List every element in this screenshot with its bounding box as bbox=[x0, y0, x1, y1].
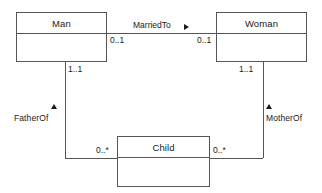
class-name-compartment-woman: Woman bbox=[217, 13, 306, 34]
class-attributes-compartment-child bbox=[118, 158, 209, 193]
class-name-child: Child bbox=[152, 142, 174, 153]
class-name-woman: Woman bbox=[245, 18, 278, 29]
class-box-man[interactable]: Man bbox=[16, 12, 107, 62]
class-name-compartment-man: Man bbox=[17, 13, 106, 34]
class-attributes-compartment-woman bbox=[217, 34, 306, 82]
class-box-woman[interactable]: Woman bbox=[216, 12, 307, 62]
arrow-up-icon-motherof bbox=[266, 104, 272, 109]
association-label-motherof: MotherOf bbox=[266, 113, 302, 123]
multiplicity-man-fatherof: 1..1 bbox=[67, 64, 83, 74]
multiplicity-woman-marriedto: 0..1 bbox=[196, 35, 212, 45]
class-name-compartment-child: Child bbox=[118, 137, 209, 158]
multiplicity-woman-motherof: 1..1 bbox=[238, 64, 254, 74]
multiplicity-child-fatherof: 0..* bbox=[95, 145, 110, 155]
multiplicity-child-motherof: 0..* bbox=[212, 145, 227, 155]
uml-class-diagram: Man Woman Child MarriedTo 0..1 0..1 1..1… bbox=[0, 0, 322, 193]
association-label-fatherof: FatherOf bbox=[14, 113, 48, 123]
arrow-right-icon-marriedto bbox=[184, 24, 189, 30]
association-label-marriedto: MarriedTo bbox=[131, 20, 173, 30]
multiplicity-man-marriedto: 0..1 bbox=[109, 35, 125, 45]
association-line-marriedto bbox=[107, 33, 216, 34]
arrow-up-icon-fatherof bbox=[51, 104, 57, 109]
class-name-man: Man bbox=[52, 18, 71, 29]
class-attributes-compartment-man bbox=[17, 34, 106, 82]
class-box-child[interactable]: Child bbox=[117, 136, 210, 187]
